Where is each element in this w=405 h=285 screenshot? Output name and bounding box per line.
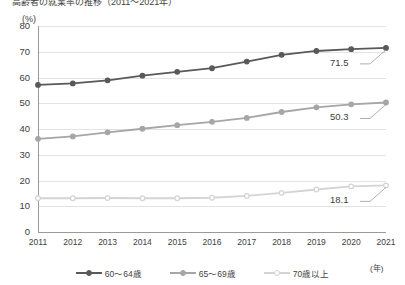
data-point-marker — [36, 136, 41, 141]
data-point-marker — [105, 196, 110, 201]
label-leader-line — [360, 104, 386, 118]
data-point-marker — [279, 110, 284, 115]
legend-marker-icon — [170, 269, 196, 277]
data-point-marker — [349, 102, 354, 107]
endpoint-data-label: 71.5 — [330, 57, 349, 68]
data-point-marker — [71, 134, 76, 139]
data-point-marker — [36, 196, 41, 201]
data-point-marker — [314, 105, 319, 110]
data-point-marker — [71, 81, 76, 86]
data-point-marker — [175, 123, 180, 128]
data-point-marker — [384, 183, 389, 188]
label-leader-line — [360, 187, 386, 201]
data-point-marker — [71, 196, 76, 201]
data-point-marker — [36, 83, 41, 88]
legend-marker-icon — [76, 269, 102, 277]
chart-legend: 60～64歳65～69歳70歳以上 — [0, 264, 405, 282]
data-point-marker — [140, 73, 145, 78]
data-point-marker — [175, 70, 180, 75]
data-point-marker — [210, 195, 215, 200]
data-point-marker — [175, 196, 180, 201]
data-point-marker — [279, 191, 284, 196]
data-point-marker — [140, 126, 145, 131]
data-point-marker — [349, 47, 354, 52]
legend-item[interactable]: 60～64歳 — [76, 267, 142, 279]
data-point-marker — [279, 53, 284, 58]
data-point-marker — [384, 46, 389, 51]
data-point-marker — [314, 187, 319, 192]
data-point-marker — [245, 116, 250, 121]
data-point-marker — [105, 130, 110, 135]
data-point-marker — [210, 66, 215, 71]
data-point-marker — [314, 49, 319, 54]
endpoint-data-label: 18.1 — [330, 194, 349, 205]
data-point-marker — [245, 194, 250, 199]
endpoint-data-label: 50.3 — [330, 111, 349, 122]
legend-label: 60～64歳 — [105, 267, 142, 279]
data-point-marker — [245, 59, 250, 64]
data-point-marker — [210, 119, 215, 124]
series-layer — [0, 0, 405, 285]
data-point-marker — [140, 196, 145, 201]
label-leader-line — [360, 50, 386, 64]
legend-label: 65～69歳 — [199, 267, 236, 279]
legend-marker-icon — [264, 269, 290, 277]
legend-item[interactable]: 65～69歳 — [170, 267, 236, 279]
employment-rate-line-chart: 高齢者の就業率の推移（2011～2021年） (%) (年) 010203040… — [0, 0, 405, 285]
data-point-marker — [349, 184, 354, 189]
data-point-marker — [105, 78, 110, 83]
legend-item[interactable]: 70歳以上 — [264, 267, 329, 279]
data-point-marker — [384, 100, 389, 105]
legend-label: 70歳以上 — [293, 267, 329, 279]
